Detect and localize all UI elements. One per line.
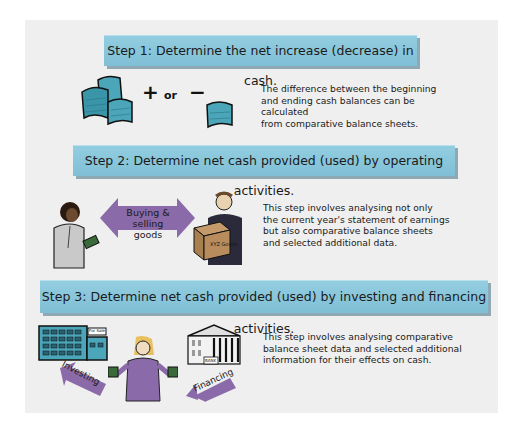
step2-banner: Step 2: Determine net cash provided (use… (73, 145, 455, 176)
buyer-person-icon (48, 198, 108, 273)
step3-description: This step involves analysing comparative… (263, 331, 483, 366)
single-cash-stack-icon (204, 97, 236, 129)
step1-banner: Step 1: Determine the net increase (decr… (104, 35, 417, 66)
step2-description: This step involves analysing not only th… (263, 202, 463, 248)
seller-person-icon: XYZ Goods (190, 190, 250, 270)
buying-selling-label: Buying & selling goods (118, 207, 178, 240)
for-sale-sign: For Sale (89, 328, 105, 333)
plus-symbol: + (142, 80, 159, 104)
step3-banner: Step 3: Determine net cash provided (use… (40, 280, 488, 313)
or-label: or (164, 89, 177, 102)
cash-stacks-icon (78, 72, 148, 127)
bank-sign: BANK (205, 358, 216, 363)
step1-description: The difference between the beginning and… (261, 83, 461, 129)
xyz-goods-box-label: XYZ Goods (210, 241, 238, 247)
woman-with-cash-icon (108, 335, 178, 403)
